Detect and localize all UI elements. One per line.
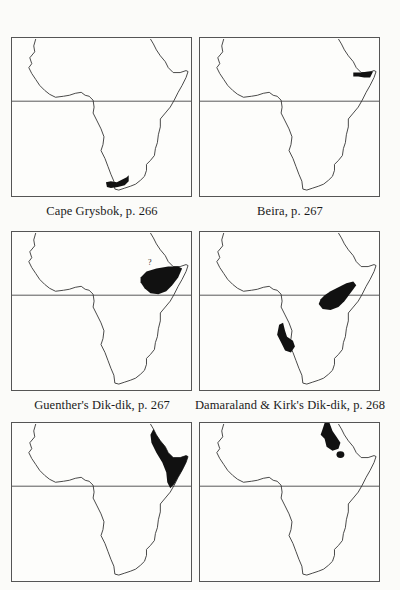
map-panel-5	[11, 422, 192, 582]
africa-outline	[217, 424, 376, 575]
range-fill	[106, 175, 129, 188]
africa-outline	[217, 39, 376, 190]
caption-guenthers-dik-dik: Guenther's Dik-dik, p. 267	[2, 398, 202, 413]
map-panel-damaraland-kirks-dik-dik	[199, 231, 380, 391]
africa-map	[200, 423, 379, 581]
caption-damaraland-kirks-dik-dik: Damaraland & Kirk's Dik-dik, p. 268	[190, 398, 390, 413]
range-fill-north	[321, 423, 341, 451]
range-fill-east-africa	[319, 281, 357, 310]
africa-outline	[217, 233, 376, 384]
map-panel-6	[199, 422, 380, 582]
map-panel-beira	[199, 37, 380, 197]
africa-map	[12, 423, 191, 581]
africa-map	[200, 38, 379, 196]
range-fill-south	[336, 451, 344, 458]
range-fill	[150, 429, 188, 488]
range-fill	[353, 72, 373, 78]
africa-map	[200, 232, 379, 390]
africa-map	[12, 232, 191, 390]
map-panel-cape-grysbok	[11, 37, 192, 197]
africa-outline	[29, 233, 188, 384]
africa-outline	[29, 39, 188, 190]
map-panel-guenthers-dik-dik: ?	[11, 231, 192, 391]
range-fill-namibia	[277, 323, 295, 353]
caption-beira: Beira, p. 267	[190, 204, 390, 219]
uncertain-range-mark: ?	[148, 258, 152, 267]
africa-map	[12, 38, 191, 196]
caption-cape-grysbok: Cape Grysbok, p. 266	[2, 204, 202, 219]
